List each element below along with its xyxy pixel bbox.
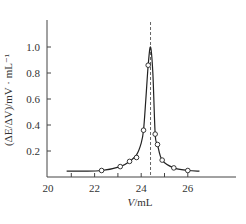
axes <box>47 20 236 177</box>
data-point <box>155 142 160 147</box>
y-tick-label: 0.4 <box>26 119 40 131</box>
data-point <box>99 168 104 173</box>
x-tick-label: 22 <box>89 182 100 194</box>
data-point <box>186 168 191 173</box>
data-point <box>146 63 151 68</box>
y-tick-label: 0.2 <box>26 145 40 157</box>
y-tick-label: 0.6 <box>26 93 40 105</box>
data-point <box>160 158 165 163</box>
x-tick-label: 24 <box>136 182 148 194</box>
x-tick-label: 20 <box>43 182 55 194</box>
data-point <box>172 166 177 171</box>
x-tick-label: 26 <box>182 182 194 194</box>
data-point <box>134 155 139 160</box>
x-axis-unit: /mL <box>134 196 153 208</box>
y-tick-label: 1.0 <box>26 41 40 53</box>
data-point <box>127 159 132 164</box>
y-axis-title: (ΔE/ΔV)/mV · mL⁻¹ <box>2 54 15 146</box>
fitted-curve <box>67 47 200 171</box>
data-point <box>118 164 123 169</box>
x-axis-title: V/mL <box>127 196 152 208</box>
data-point <box>141 128 146 133</box>
x-ticks: 20222426 <box>43 173 194 194</box>
y-tick-label: 0.8 <box>26 67 40 79</box>
derivative-titration-chart: 0.20.40.60.81.0 20222426 V/mL (ΔE/ΔV)/mV… <box>0 0 246 224</box>
data-point <box>153 132 158 137</box>
